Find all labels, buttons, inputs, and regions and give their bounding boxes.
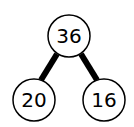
number-bond-diagram: 36 20 16: [0, 0, 134, 127]
root-node: 36: [48, 15, 90, 57]
child-right-label: 16: [91, 88, 116, 112]
edge-left: [41, 54, 57, 80]
edge-right: [81, 54, 97, 80]
child-node-left: 20: [13, 79, 55, 121]
root-label: 36: [56, 24, 81, 48]
child-node-right: 16: [83, 79, 125, 121]
child-left-label: 20: [21, 88, 46, 112]
